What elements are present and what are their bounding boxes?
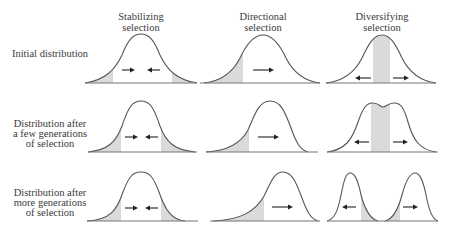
- selected-region-left: [204, 30, 243, 84]
- panel-stabilizing-more-generations: [87, 168, 198, 222]
- selected-region-left: [85, 30, 113, 84]
- row-label-more-generations: Distribution after more generations of s…: [14, 187, 87, 218]
- selected-region-left: [213, 168, 264, 222]
- arrow-left-icon: [355, 76, 371, 81]
- selected-region-middle: [373, 30, 390, 84]
- column-header-diversifying: Diversifying selection: [355, 11, 409, 33]
- arrow-left-icon: [354, 140, 369, 145]
- svg-text:Stabilizing: Stabilizing: [118, 11, 164, 22]
- row-label-few-generations: Distribution after a few generations of …: [13, 118, 87, 149]
- panel-diversifying-few-generations: [327, 98, 438, 153]
- column-header-directional: Directional selection: [239, 11, 286, 33]
- panel-directional-few-generations: [206, 98, 318, 153]
- svg-text:of selection: of selection: [26, 207, 75, 218]
- selected-region-left: [206, 98, 249, 153]
- distribution-curve: [206, 101, 308, 152]
- selected-region-left-peak: [361, 168, 379, 222]
- selected-region-right: [161, 98, 195, 153]
- arrow-right-icon: [272, 205, 293, 210]
- selected-region-right: [161, 168, 186, 222]
- row-label-initial: Initial distribution: [12, 48, 89, 59]
- svg-text:selection: selection: [244, 22, 282, 33]
- selected-region-left: [88, 98, 121, 153]
- distribution-curve: [88, 101, 195, 152]
- distribution-curve: [85, 34, 197, 83]
- column-header-stabilizing: Stabilizing selection: [118, 11, 164, 33]
- svg-text:selection: selection: [122, 22, 160, 33]
- svg-text:of selection: of selection: [26, 138, 75, 149]
- arrow-right-icon: [122, 68, 135, 73]
- panel-directional-more-generations: [210, 168, 320, 222]
- arrow-right-icon: [393, 140, 408, 145]
- panel-diversifying-more-generations: [327, 168, 438, 222]
- selected-region-right: [172, 30, 198, 84]
- arrow-right-icon: [125, 135, 138, 140]
- svg-text:Diversifying: Diversifying: [355, 11, 409, 22]
- natural-selection-diagram: Stabilizing selection Directional select…: [0, 0, 452, 233]
- arrow-right-icon: [125, 206, 138, 211]
- panel-stabilizing-initial: [85, 30, 198, 84]
- selected-region-left: [87, 168, 121, 222]
- arrow-left-icon: [342, 205, 356, 210]
- selected-region-right-peak: [384, 168, 400, 222]
- panel-stabilizing-few-generations: [88, 98, 197, 153]
- distribution-curve-left: [327, 173, 378, 221]
- arrow-right-icon: [393, 76, 409, 81]
- distribution-curve: [204, 35, 320, 83]
- panel-diversifying-initial: [326, 30, 436, 84]
- distribution-curve: [213, 172, 318, 221]
- svg-text:Directional: Directional: [239, 11, 286, 22]
- arrow-right-icon: [403, 205, 418, 210]
- svg-text:selection: selection: [363, 22, 401, 33]
- arrow-left-icon: [147, 68, 160, 73]
- arrow-right-icon: [258, 135, 279, 140]
- distribution-curve: [87, 172, 185, 221]
- arrow-left-icon: [145, 206, 158, 211]
- arrow-left-icon: [145, 135, 158, 140]
- svg-text:Initial distribution: Initial distribution: [12, 48, 89, 59]
- panel-directional-initial: [200, 30, 320, 84]
- arrow-right-icon: [253, 68, 274, 73]
- distribution-curve-right: [385, 173, 438, 221]
